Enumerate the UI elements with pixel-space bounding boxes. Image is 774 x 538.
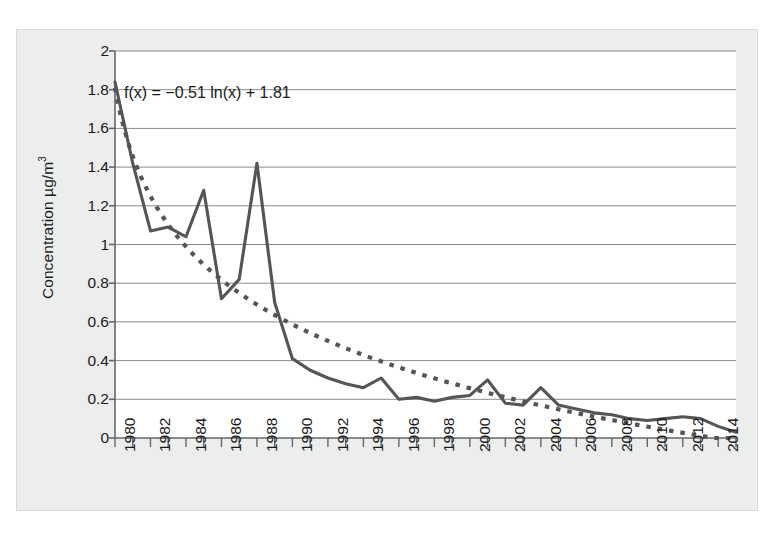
chart-figure: Concentration µg/m3 00.20.40.60.811.21.4… [16,29,758,511]
x-axis-tick-label: 2006 [582,418,600,452]
x-axis-tick-label: 2004 [547,418,565,452]
x-axis-tick-label: 1988 [263,418,281,452]
x-axis-tick-label: 1990 [298,418,316,452]
x-axis-tick-labels: 1980198219841986198819901992199419961998… [17,30,759,512]
x-axis-tick-label: 2008 [618,418,636,452]
x-axis-tick-label: 1984 [192,418,210,452]
x-axis-tick-label: 1986 [227,418,245,452]
x-axis-tick-label: 1992 [334,418,352,452]
x-axis-tick-label: 1980 [121,418,139,452]
trendline-equation-annotation: f(x) = −0.51 ln(x) + 1.81 [124,84,291,102]
x-axis-tick-label: 2002 [511,418,529,452]
x-axis-tick-label: 2000 [476,418,494,452]
x-axis-tick-label: 1994 [369,418,387,452]
x-axis-tick-label: 2010 [653,418,671,452]
x-axis-tick-label: 1996 [405,418,423,452]
x-axis-tick-label: 1982 [156,418,174,452]
x-axis-tick-label: 2014 [724,418,742,452]
x-axis-tick-label: 1998 [440,418,458,452]
x-axis-tick-label: 2012 [689,418,707,452]
